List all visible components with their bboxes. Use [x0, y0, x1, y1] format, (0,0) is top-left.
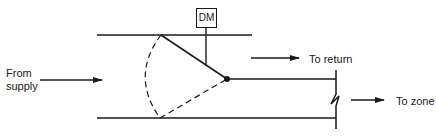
- damper-motor-label: DM: [199, 12, 215, 23]
- damper-blade-solid: [161, 35, 227, 79]
- damper-blade-alternate-dashed: [160, 79, 227, 118]
- from-supply-label-line1: From: [6, 67, 32, 80]
- to-zone-label: To zone: [396, 95, 435, 108]
- damper-swing-arc-dashed: [145, 35, 161, 118]
- to-return-label: To return: [309, 53, 352, 66]
- from-supply-label-line2: supply: [6, 80, 38, 93]
- damper-diagram: [0, 0, 436, 139]
- damper-motor-box: DM: [196, 8, 217, 28]
